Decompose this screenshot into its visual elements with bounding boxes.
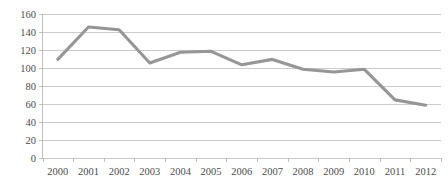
chart-canvas: 020406080100120140160 200020012002200320…: [0, 0, 448, 189]
x-axis-tick-label: 2009: [323, 166, 344, 177]
y-axis-tick-label: 140: [20, 27, 36, 38]
x-axis-tick-label: 2002: [109, 166, 130, 177]
y-axis-tick-label: 20: [26, 135, 37, 146]
x-axis-tick-label: 2005: [201, 166, 222, 177]
x-axis-tick-label: 2011: [385, 166, 406, 177]
y-axis-tick-label: 120: [20, 45, 36, 56]
y-axis-tick-label: 60: [26, 99, 37, 110]
y-axis-tick-label: 40: [26, 117, 37, 128]
y-axis-tick-label: 160: [20, 9, 36, 20]
x-axis-tick-label: 2004: [170, 166, 192, 177]
x-axis-tick-label: 2012: [415, 166, 436, 177]
x-axis-tick-label: 2006: [231, 166, 252, 177]
x-axis-tick-label: 2007: [262, 166, 283, 177]
line-chart: 020406080100120140160 200020012002200320…: [0, 0, 448, 189]
x-axis-tick-label: 2000: [47, 166, 68, 177]
y-axis-tick-label: 100: [20, 63, 36, 74]
x-axis-tick-label: 2008: [293, 166, 314, 177]
x-axis-tick-label: 2001: [78, 166, 99, 177]
y-axis-tick-label: 0: [31, 153, 36, 164]
y-axis-tick-label: 80: [26, 81, 37, 92]
x-axis-tick-label: 2003: [139, 166, 160, 177]
x-axis-tick-label: 2010: [354, 166, 375, 177]
